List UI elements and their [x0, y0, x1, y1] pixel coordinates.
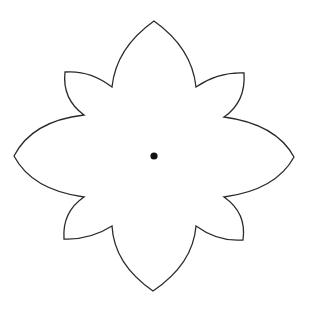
flower-svg: [0, 0, 314, 310]
center-dot: [150, 152, 157, 159]
flower-diagram: Eight-petal flower outline with center p…: [0, 0, 314, 310]
